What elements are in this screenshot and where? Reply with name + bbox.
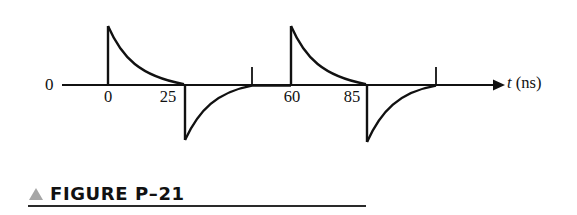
axis-ticks: [252, 67, 436, 85]
figure-caption-text: FIGURE P–21: [50, 183, 185, 204]
x-axis-unit: (ns): [516, 73, 542, 92]
waveform-plot: [0, 0, 577, 160]
y-axis-origin-label: 0: [45, 76, 54, 93]
figure-p21: 0 0 25 60 85 t (ns) FIGURE P–21: [0, 0, 577, 215]
x-axis-label: t (ns): [507, 75, 541, 92]
x-tick-label-85: 85: [344, 89, 361, 106]
caption-divider: [28, 205, 366, 207]
pulse-2-positive-decay: [291, 26, 366, 84]
x-tick-label-60: 60: [284, 89, 301, 106]
up-triangle-icon: [29, 188, 43, 200]
x-tick-label-0: 0: [104, 89, 112, 106]
x-tick-label-25: 25: [160, 89, 177, 106]
axis-arrowhead-icon: [493, 80, 505, 91]
pulse-1-negative-recovery: [185, 86, 252, 140]
figure-caption: FIGURE P–21: [0, 183, 577, 215]
pulse-1-positive-decay: [108, 26, 184, 84]
pulse-2-negative-recovery: [367, 86, 436, 142]
